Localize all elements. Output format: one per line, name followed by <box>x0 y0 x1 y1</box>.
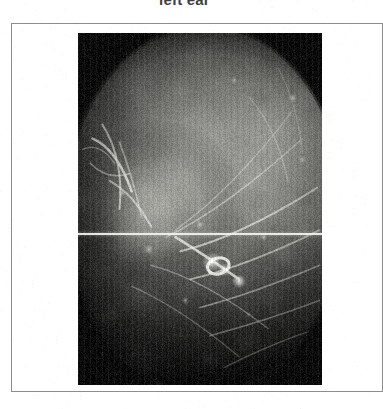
figure-frame-bottom-border <box>11 391 369 392</box>
otoscopy-photo <box>78 33 322 385</box>
otoscopy-photo-canvas <box>78 33 322 385</box>
figure-title: left ear <box>0 0 369 8</box>
figure-frame-top-border <box>11 23 369 24</box>
